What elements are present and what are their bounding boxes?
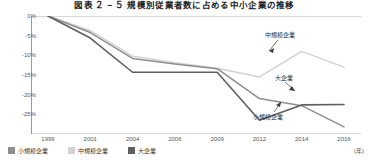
x-tick-label-2014: 2014 bbox=[295, 136, 308, 142]
x-tick-label-2004: 2004 bbox=[126, 136, 139, 142]
series-line-medium bbox=[48, 16, 344, 77]
chart-title: 図表 ２ − ５ 規模別従業者数に占める中小企業の推移 bbox=[0, 0, 369, 10]
chart-legend: 小規模企業 中規模企業 大企業 bbox=[8, 146, 156, 155]
annotation-label-large: 大企業 bbox=[275, 73, 293, 82]
legend-swatch-small bbox=[8, 147, 15, 154]
chart-container: 図表 ２ − ５ 規模別従業者数に占める中小企業の推移 0% -5% -10% … bbox=[0, 0, 369, 160]
legend-label-small: 小規模企業 bbox=[18, 146, 48, 155]
x-tick-label-1999: 1999 bbox=[41, 136, 54, 142]
x-tick-label-2006: 2006 bbox=[168, 136, 181, 142]
legend-item-small[interactable]: 小規模企業 bbox=[8, 146, 48, 155]
x-tick-label-2016: 2016 bbox=[337, 136, 350, 142]
plot-area: 中規模企業 大企業 小規模企業 bbox=[31, 16, 361, 134]
chart-lines bbox=[31, 16, 361, 134]
legend-label-medium: 中規模企業 bbox=[78, 146, 108, 155]
x-tick-label-2012: 2012 bbox=[253, 136, 266, 142]
chart-title-text: 図表 ２ − ５ 規模別従業者数に占める中小企業の推移 bbox=[74, 0, 295, 10]
axis-unit-label: (年) bbox=[354, 146, 364, 155]
annotation-label-medium: 中規模企業 bbox=[265, 30, 295, 39]
legend-swatch-medium bbox=[68, 147, 75, 154]
x-tick-label-2001: 2001 bbox=[84, 136, 97, 142]
annotation-label-small: 小規模企業 bbox=[253, 112, 283, 121]
legend-item-large[interactable]: 大企業 bbox=[128, 146, 156, 155]
legend-label-large: 大企業 bbox=[138, 146, 156, 155]
annotation-arrow-small bbox=[276, 102, 281, 107]
legend-item-medium[interactable]: 中規模企業 bbox=[68, 146, 108, 155]
legend-swatch-large bbox=[128, 147, 135, 154]
x-tick-label-2009: 2009 bbox=[210, 136, 223, 142]
